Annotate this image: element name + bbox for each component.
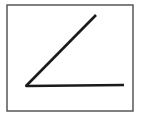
angle-diagram xyxy=(0,0,141,118)
horizontal-ray xyxy=(26,85,124,86)
angle-vertex xyxy=(25,85,27,87)
border-rectangle xyxy=(7,5,133,111)
figure-canvas xyxy=(0,0,141,118)
